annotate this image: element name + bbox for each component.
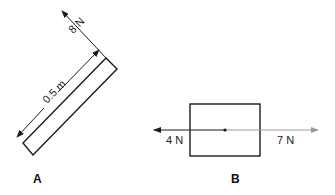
- diagram-a: 8 N 0.5 m A: [17, 11, 117, 186]
- diagram-b: 4 N 7 N B: [154, 104, 318, 186]
- force-label-7n: 7 N: [277, 134, 294, 146]
- force-arrow-8n: [62, 11, 106, 58]
- panel-label-a: A: [33, 172, 42, 186]
- force-label-4n: 4 N: [166, 134, 183, 146]
- rod: [23, 58, 117, 155]
- diagram-canvas: 8 N 0.5 m A 4 N 7 N B: [0, 0, 335, 195]
- center-point: [223, 128, 226, 131]
- dimension-line-lower: [17, 108, 44, 137]
- panel-label-b: B: [231, 172, 240, 186]
